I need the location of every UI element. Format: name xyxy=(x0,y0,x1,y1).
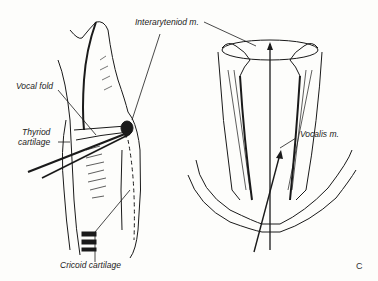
larynx-illustration xyxy=(0,0,378,281)
panel-letter: C xyxy=(356,261,363,271)
label-cricoid: Cricoid cartilage xyxy=(60,261,121,270)
label-thyroid-2: cartilage xyxy=(18,138,50,147)
label-thyroid-1: Thyriod xyxy=(22,128,50,137)
label-interarytenoid: Interaryteniod m. xyxy=(135,18,199,27)
label-vocal-fold: Vocal fold xyxy=(16,82,53,91)
label-vocalis: Vocalis m. xyxy=(300,130,339,139)
